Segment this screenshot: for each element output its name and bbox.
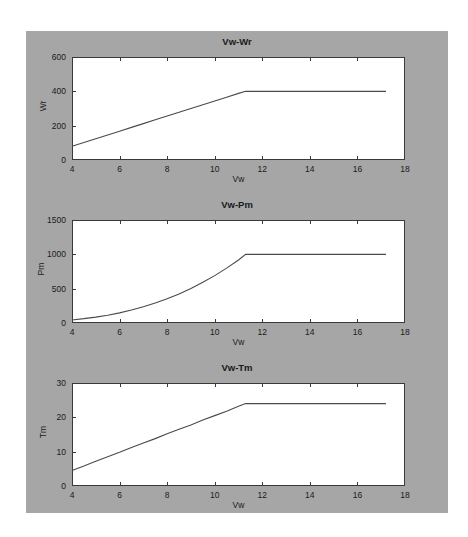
data-line-3 <box>26 357 448 517</box>
matlab-figure-canvas: Vw-Wr Wr Vw 0200400600 4681012141618 Vw-… <box>26 31 448 513</box>
data-line-1 <box>26 31 448 191</box>
data-line-2 <box>26 194 448 354</box>
